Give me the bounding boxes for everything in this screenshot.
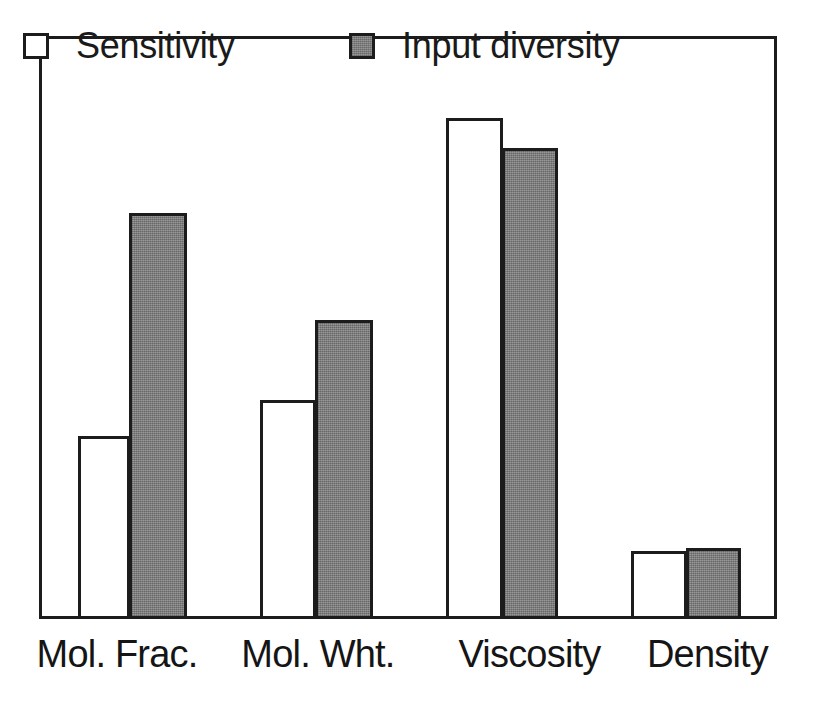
open-square-icon: [23, 33, 49, 59]
bar-density-sensitivity[interactable]: [631, 551, 687, 619]
x-axis-labels: Mol. Frac. Mol. Wht. Viscosity Density: [0, 626, 813, 688]
x-axis-label-mol-frac: Mol. Frac.: [22, 626, 212, 682]
filled-square-icon: [349, 33, 375, 59]
bar-mol-frac-sensitivity[interactable]: [78, 436, 130, 619]
x-axis-label-density: Density: [625, 626, 790, 682]
legend-item-sensitivity[interactable]: Sensitivity: [23, 26, 235, 66]
bar-mol-wht-input-diversity[interactable]: [315, 320, 373, 619]
legend-item-label: Sensitivity: [76, 28, 235, 64]
bar-mol-wht-sensitivity[interactable]: [260, 400, 316, 619]
bar-viscosity-sensitivity[interactable]: [446, 118, 503, 619]
bar-density-input-diversity[interactable]: [686, 548, 741, 619]
x-axis-label-mol-wht: Mol. Wht.: [228, 626, 408, 682]
legend-item-label: Input diversity: [402, 28, 620, 64]
bar-viscosity-input-diversity[interactable]: [502, 148, 558, 619]
legend-item-input-diversity[interactable]: Input diversity: [349, 26, 620, 66]
x-axis-label-viscosity: Viscosity: [442, 626, 617, 682]
bar-mol-frac-input-diversity[interactable]: [129, 213, 187, 619]
bar-chart-figure: Sensitivity Input diversity Mol. Frac. M…: [0, 0, 813, 705]
